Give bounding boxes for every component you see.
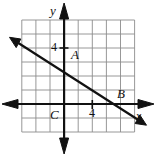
y-axis-label: y [50,4,56,17]
x-axis-arrow-left [2,100,18,109]
x-axis-arrow-right [138,100,154,109]
coordinate-plane-figure: y x 4 4 A B C [0,0,156,157]
point-label-c: C [50,108,59,121]
point-label-a: A [71,48,79,61]
point-label-b: B [117,87,125,100]
y-axis-arrow-down [60,138,69,154]
y-axis-arrow-up [60,3,69,19]
y-axis-tick-label-4: 4 [51,41,57,53]
x-axis-tick-label-4: 4 [89,107,95,119]
x-axis-label: x [136,110,141,122]
graph-canvas [0,0,156,157]
line-arrow-upper-left [10,37,21,47]
grid-lines [22,20,135,132]
